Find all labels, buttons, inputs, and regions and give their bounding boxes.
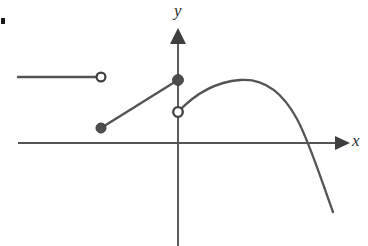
- open-circle-ray-end: [97, 73, 106, 82]
- closed-circle-segment-left: [96, 123, 106, 133]
- open-circle-on-y-axis: [173, 107, 183, 117]
- axes-group: [18, 28, 350, 246]
- rising-line-segment: [101, 80, 178, 128]
- plot-canvas: [0, 0, 368, 246]
- closed-circle-on-y-axis: [173, 75, 184, 86]
- y-axis-label: y: [174, 2, 182, 19]
- x-axis-arrowhead: [335, 136, 350, 150]
- parabola-curve: [178, 80, 333, 212]
- rising-segment-group: [101, 80, 178, 128]
- y-axis-arrowhead: [170, 28, 186, 44]
- x-axis-label: x: [352, 132, 360, 149]
- scan-artifact-mark: [1, 18, 5, 24]
- parabola-branch-group: [178, 80, 333, 212]
- graph-figure: y x: [0, 0, 368, 246]
